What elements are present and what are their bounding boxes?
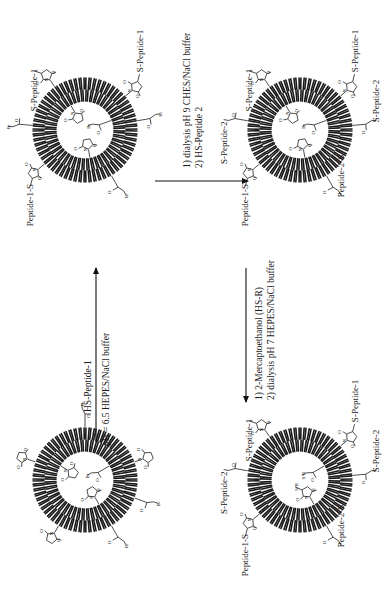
peptide-label: S-Peptide-1 xyxy=(350,380,360,423)
peptide-label: Peptide-2-S xyxy=(336,155,346,198)
succinimide-peptide1-group: OONS-Peptide-1 xyxy=(337,30,359,98)
nitrogen-label: N xyxy=(22,457,27,461)
bromoacetyl-group: OBr xyxy=(107,176,129,198)
oxygen-label: O xyxy=(143,465,148,469)
oxygen-label: O xyxy=(96,131,101,135)
oxygen-label: O xyxy=(69,461,74,465)
step-3-line-2: 2) dialysis pH 7 HEPES/NaCl buffer xyxy=(266,259,277,400)
nitrogen-label: N xyxy=(63,468,68,472)
oxygen-label: O xyxy=(24,162,29,166)
peptide-label: S-Peptide-1 xyxy=(244,419,254,462)
lipid-bilayer xyxy=(33,428,137,532)
nitrogen-label: N xyxy=(32,168,37,172)
bromine-label: Br xyxy=(301,123,306,128)
peptide-label: Peptide-1-S xyxy=(240,184,250,227)
oxygen-label: O xyxy=(16,465,21,469)
oxygen-label: O xyxy=(278,118,283,122)
nitrogen-label: N xyxy=(285,111,290,115)
oxygen-label: O xyxy=(239,162,244,166)
oxygen-label: O xyxy=(63,118,68,122)
step-2-line-1: 1) dialysis pH 9 CHES/NaCl buffer xyxy=(182,32,193,168)
maleimide-group: OON xyxy=(73,139,97,158)
maleimide-group: OON xyxy=(80,487,102,505)
bromoacetyl-group: OBr xyxy=(6,118,32,129)
peptide-label: Peptide-2-S xyxy=(336,505,346,548)
nitrogen-label: N xyxy=(304,495,309,499)
oxygen-label: O xyxy=(136,447,141,451)
oxygen-label: O xyxy=(322,540,327,544)
oxygen-label: O xyxy=(73,146,78,150)
oxygen-label: O xyxy=(266,420,271,424)
oxygen-label: O xyxy=(231,463,236,467)
oxygen-label: O xyxy=(107,540,112,544)
oxygen-label: O xyxy=(95,478,100,482)
bromoacetyl-group: OBr xyxy=(135,498,162,512)
peptide-label: S-Peptide-2 xyxy=(371,80,381,123)
nitrogen-label: N xyxy=(83,147,88,151)
oxygen-label: O xyxy=(96,488,101,492)
oxygen-label: O xyxy=(266,70,271,74)
bromine-label: Br xyxy=(124,193,129,198)
peptide-label: Peptide-1-S xyxy=(240,534,250,577)
oxygen-label: O xyxy=(231,113,236,117)
oxygen-label: O xyxy=(307,143,312,147)
peptide-label: S-R xyxy=(301,471,306,479)
oxygen-label: O xyxy=(79,109,84,113)
oxygen-label: O xyxy=(310,478,315,482)
oxygen-label: O xyxy=(80,497,85,501)
oxygen-label: O xyxy=(135,94,140,98)
oxygen-label: O xyxy=(252,526,257,530)
maleimide-group: OON xyxy=(135,447,153,469)
oxygen-label: O xyxy=(295,497,300,501)
oxygen-label: O xyxy=(337,430,342,434)
nitrogen-label: N xyxy=(298,147,303,151)
bromine-label: Br xyxy=(6,124,11,129)
bromine-label: Br xyxy=(85,473,90,478)
bromoacetyl-group: OBr xyxy=(301,120,327,134)
bromine-label: Br xyxy=(156,501,161,506)
step-1-reagent: HS-Peptide-1 xyxy=(83,360,93,412)
arrow-step-1: HS-Peptide-1 pH = 6.5 HEPES/NaCl buffer xyxy=(83,268,111,446)
reaction-scheme: OONOONOBrOONOBrOBrOONOONOBr OONS-Peptide… xyxy=(0,0,389,609)
nitrogen-label: N xyxy=(44,78,49,82)
oxygen-label: O xyxy=(122,80,127,84)
nitrogen-label: N xyxy=(342,88,347,92)
bromine-label: Br xyxy=(158,111,163,116)
bromoacetyl-group: OBr xyxy=(107,526,129,548)
oxygen-label: O xyxy=(311,488,316,492)
peptide-label: S-Peptide-2 xyxy=(371,430,381,473)
acetyl-peptide2-group: OS-Peptide-2 xyxy=(219,113,248,164)
oxygen-label: O xyxy=(239,512,244,516)
succinimide-peptide1-group: OONPeptide-1-S xyxy=(239,512,259,576)
succinimide-peptide1-group: OONPeptide-1-S xyxy=(24,162,44,226)
oxygen-label: O xyxy=(146,124,151,128)
liposome-peptide-1: OONS-Peptide-1OONS-Peptide-1OONPeptide-1… xyxy=(6,30,163,227)
oxygen-label: O xyxy=(92,143,97,147)
nitrogen-label: N xyxy=(70,111,75,115)
oxygen-label: O xyxy=(252,176,257,180)
oxygen-label: O xyxy=(37,176,42,180)
oxygen-label: O xyxy=(350,444,355,448)
arrow-step-3: 1) 2-Mercaptoethanol (HS-R) 2) dialysis … xyxy=(246,259,277,402)
nitrogen-label: N xyxy=(259,428,264,432)
oxygen-label: O xyxy=(139,508,144,512)
nitrogen-label: N xyxy=(49,531,54,535)
oxygen-label: O xyxy=(288,146,293,150)
peptide-label: S-R xyxy=(294,482,299,490)
peptide-label: S-Peptide-2 xyxy=(219,472,229,514)
bromine-label: Br xyxy=(86,123,91,128)
oxygen-label: O xyxy=(361,480,366,484)
maleimide-group: OON xyxy=(16,447,35,469)
maleimide-group: OON xyxy=(60,461,78,481)
succinimide-sr-group: OONS-R xyxy=(294,482,317,504)
oxygen-label: O xyxy=(337,80,342,84)
nitrogen-label: N xyxy=(137,457,142,461)
nitrogen-label: N xyxy=(247,168,252,172)
nitrogen-label: N xyxy=(247,518,252,522)
maleimide-group: OON xyxy=(39,526,61,544)
oxygen-label: O xyxy=(51,70,56,74)
oxygen-label: O xyxy=(294,109,299,113)
oxygen-label: O xyxy=(361,130,366,134)
acetyl-peptide2-group: OS-Peptide-2 xyxy=(219,463,248,514)
bromoacetyl-group: OBr xyxy=(137,111,163,128)
